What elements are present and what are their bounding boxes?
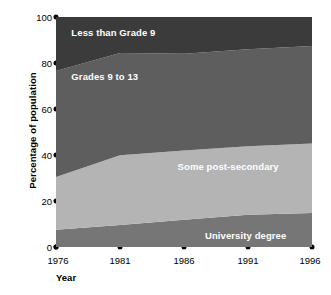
plot-area [56, 17, 312, 247]
area-series-svg [56, 17, 312, 247]
stacked-area-chart: Percentage of population 100 80 60 40 20… [0, 0, 331, 295]
x-tick-label-1976: 1976 [47, 255, 68, 266]
y-tick-label-0: 0 [47, 242, 52, 253]
y-axis-title: Percentage of population [27, 41, 38, 221]
y-tick-label-80: 80 [41, 58, 52, 69]
y-tick-label-60: 60 [41, 104, 52, 115]
y-tick-label-20: 20 [41, 196, 52, 207]
series-label-less-than-grade-9: Less than Grade 9 [71, 27, 155, 38]
y-tick-label-100: 100 [36, 12, 52, 23]
x-tick-label-1996: 1996 [299, 255, 320, 266]
y-tick-label-40: 40 [41, 150, 52, 161]
series-label-grades-9-to-13: Grades 9 to 13 [71, 71, 138, 82]
x-axis-title: Year [56, 272, 76, 283]
series-label-university-degree: University degree [205, 230, 286, 241]
series-label-some-post-secondary: Some post-secondary [178, 161, 279, 172]
x-tick-label-1986: 1986 [173, 255, 194, 266]
x-tick-label-1991: 1991 [237, 255, 258, 266]
x-tick-label-1981: 1981 [109, 255, 130, 266]
